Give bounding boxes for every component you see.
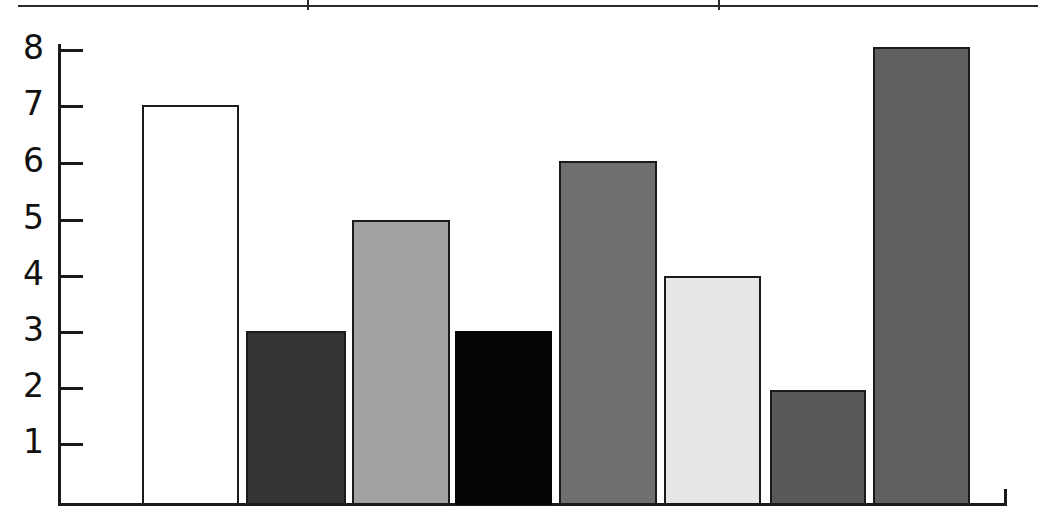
bar-5 — [559, 161, 657, 505]
y-axis-label-3: 3 — [0, 313, 44, 346]
x-axis-end-tick — [1004, 489, 1007, 506]
bar-3 — [352, 220, 450, 505]
bar-6 — [664, 276, 761, 505]
y-axis-label-7: 7 — [0, 87, 44, 120]
y-axis-label-4: 4 — [0, 257, 44, 290]
y-axis-tick-6 — [61, 162, 83, 165]
y-axis-tick-5 — [61, 219, 83, 222]
y-axis-tick-7 — [61, 105, 83, 108]
bar-8 — [873, 47, 970, 505]
y-axis-tick-3 — [61, 331, 83, 334]
y-axis-tick-2 — [61, 387, 83, 390]
y-axis-tick-1 — [61, 443, 83, 446]
y-axis-label-6: 6 — [0, 144, 44, 177]
bar-2 — [246, 331, 346, 505]
y-axis-label-8: 8 — [0, 31, 44, 64]
y-axis-label-5: 5 — [0, 201, 44, 234]
bar-4 — [455, 331, 552, 505]
bar-7 — [770, 390, 866, 505]
y-axis-label-2: 2 — [0, 369, 44, 402]
bar-1 — [142, 105, 239, 505]
y-axis-label-1: 1 — [0, 425, 44, 458]
y-axis-tick-8 — [61, 49, 83, 52]
bar-chart-figure: 12345678 — [0, 0, 1038, 531]
plot-area: 12345678 — [0, 0, 1038, 531]
y-axis-tick-4 — [61, 275, 83, 278]
